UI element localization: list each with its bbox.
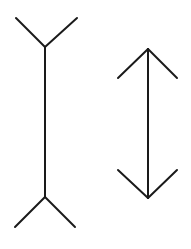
muller-lyer-diagram — [0, 0, 191, 249]
fin-line — [45, 18, 77, 47]
fin-line — [16, 18, 45, 47]
fin-line — [15, 197, 45, 227]
fins-in-line — [118, 49, 177, 198]
fin-line — [45, 197, 75, 227]
fin-line — [148, 49, 177, 78]
fin-line — [118, 49, 148, 78]
fins-out-line — [15, 18, 77, 227]
fin-line — [148, 170, 177, 198]
fin-line — [118, 170, 148, 198]
